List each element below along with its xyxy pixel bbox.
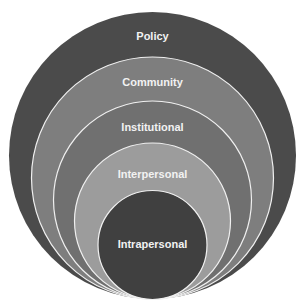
label-intrapersonal: Intrapersonal xyxy=(118,238,188,250)
nested-circles-diagram: Policy Community Institutional Interpers… xyxy=(0,0,307,307)
label-community: Community xyxy=(122,76,183,88)
label-interpersonal: Interpersonal xyxy=(118,168,188,180)
label-institutional: Institutional xyxy=(121,121,183,133)
label-policy: Policy xyxy=(136,30,169,42)
